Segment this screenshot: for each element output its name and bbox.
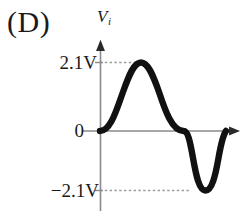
y-tick-label-zero: 0 — [75, 121, 85, 140]
waveform-figure: (D) Vi 2.1V 0 −2.1V — [0, 0, 251, 211]
y-axis-label-main: V — [97, 7, 107, 26]
y-axis-label: Vi — [97, 8, 111, 27]
panel-label: (D) — [7, 7, 50, 37]
sine-waveform — [100, 63, 226, 191]
y-tick-label-positive: 2.1V — [60, 53, 97, 72]
y-axis-label-subscript: i — [108, 15, 111, 27]
y-tick-label-negative: −2.1V — [51, 181, 99, 200]
